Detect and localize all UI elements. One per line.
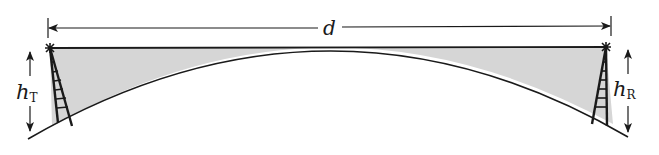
distance-label: d — [319, 18, 340, 38]
receiver-height-label: hR — [613, 79, 636, 101]
receiver-height-symbol: h — [613, 77, 627, 101]
transmitter-height-subscript: T — [30, 91, 38, 105]
transmitter-height-label: hT — [16, 82, 38, 104]
receiver-height-subscript: R — [627, 88, 636, 102]
distance-symbol: d — [323, 16, 336, 40]
shaded-propagation-region — [50, 47, 613, 126]
line-of-sight — [50, 47, 606, 48]
transmitter-height-symbol: h — [16, 80, 30, 104]
distance-arrow-right — [342, 26, 610, 27]
